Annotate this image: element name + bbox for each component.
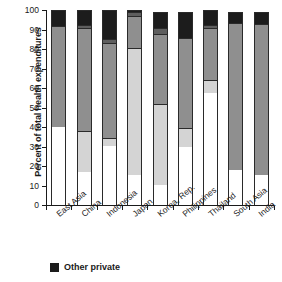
y-tick-label: 10 — [30, 182, 39, 190]
y-tick-label: 90 — [30, 26, 39, 34]
bar-philippines[interactable] — [178, 12, 193, 205]
bar-indonesia[interactable] — [102, 10, 117, 205]
bar-segment-opv — [78, 10, 91, 25]
bar-east-asia[interactable] — [51, 10, 66, 205]
bar-segment-opv — [128, 10, 141, 12]
y-tick — [42, 49, 46, 50]
bar-segment-pub — [179, 38, 192, 128]
bar-segment-ssi — [204, 80, 217, 93]
bar-segment-pub — [255, 24, 268, 175]
bar-segment-pub — [103, 43, 116, 138]
bar-japan[interactable] — [127, 10, 142, 205]
y-tick — [42, 88, 46, 89]
bar-india[interactable] — [254, 12, 269, 205]
y-tick-label: 50 — [30, 104, 39, 112]
bar-korea-rep[interactable] — [153, 12, 168, 205]
bar-segment-pub — [204, 28, 217, 81]
y-tick — [42, 69, 46, 70]
bar-segment-nfp — [154, 28, 167, 34]
bar-segment-ssi — [128, 48, 141, 175]
plot-area: 0102030405060708090100 — [46, 10, 274, 206]
y-tick — [42, 10, 46, 11]
y-tick — [42, 186, 46, 187]
y-tick-label: 40 — [30, 123, 39, 131]
bar-segment-nfp — [204, 25, 217, 28]
bar-segment-opv — [255, 12, 268, 24]
bar-segment-nfp — [128, 12, 141, 16]
y-tick — [42, 108, 46, 109]
bar-segment-nfp — [103, 39, 116, 43]
bar-segment-opv — [204, 10, 217, 25]
bar-segment-ssi — [103, 138, 116, 146]
y-tick-label: 30 — [30, 143, 39, 151]
bar-segment-opv — [179, 12, 192, 38]
bar-china[interactable] — [77, 10, 92, 205]
bar-segment-opv — [154, 12, 167, 28]
y-tick — [42, 166, 46, 167]
bar-segment-pub — [154, 34, 167, 105]
bar-segment-oop — [103, 146, 116, 205]
y-tick-label: 0 — [34, 201, 39, 209]
x-tick — [46, 206, 47, 210]
legend-swatch-other-private — [50, 263, 59, 272]
legend: Other private — [50, 262, 120, 272]
bar-south-asia[interactable] — [228, 12, 243, 205]
y-tick-label: 80 — [30, 45, 39, 53]
chart-figure: Percent of total health expenditures 010… — [0, 0, 282, 282]
y-tick — [42, 147, 46, 148]
bar-segment-pub — [128, 16, 141, 48]
y-tick — [42, 127, 46, 128]
bar-segment-pub — [229, 23, 242, 170]
y-tick-label: 100 — [25, 6, 39, 14]
bar-thailand[interactable] — [203, 10, 218, 205]
bar-segment-opv — [103, 10, 116, 39]
bar-segment-oop — [52, 127, 65, 205]
y-axis-line — [46, 10, 47, 206]
bar-segment-pub — [52, 26, 65, 127]
legend-label-other-private: Other private — [64, 262, 120, 272]
bar-segment-opv — [52, 10, 65, 26]
y-tick — [42, 30, 46, 31]
bar-segment-ssi — [154, 104, 167, 184]
bar-segment-opv — [229, 12, 242, 23]
bar-segment-pub — [78, 28, 91, 131]
bar-segment-nfp — [78, 25, 91, 28]
y-tick-label: 70 — [30, 65, 39, 73]
bar-segment-ssi — [78, 131, 91, 172]
y-tick-label: 60 — [30, 84, 39, 92]
bar-segment-ssi — [179, 128, 192, 147]
y-tick-label: 20 — [30, 162, 39, 170]
